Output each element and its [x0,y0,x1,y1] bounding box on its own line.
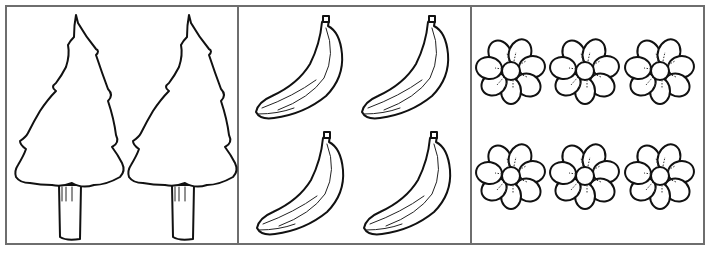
banana-icon [257,132,343,234]
panel-bananas [256,16,450,234]
panel-trees [15,15,236,240]
tree-icon [128,15,236,240]
flower-icon [548,141,620,209]
tree-icon [15,15,123,240]
flower-icon [548,36,620,104]
flower-icon [623,141,695,209]
panel-flowers [474,36,695,209]
banana-icon [364,132,450,234]
flower-icon [474,36,546,104]
flower-icon [623,36,695,104]
banana-icon [362,16,448,118]
banana-icon [256,16,342,118]
flower-icon [474,141,546,209]
